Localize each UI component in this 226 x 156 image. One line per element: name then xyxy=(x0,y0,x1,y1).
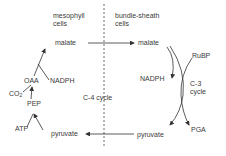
c3-cycle-label: C-3 cycle xyxy=(190,80,206,96)
bundle-sheath-malate: malate xyxy=(138,39,159,47)
co2-label: CO2 xyxy=(9,90,22,99)
c4-cycle-label: C-4 cycle xyxy=(83,94,112,102)
bundle-sheath-cells-label: bundle-sheath cells xyxy=(115,12,159,28)
pep-label: PEP xyxy=(27,100,41,108)
mesophyll-nadph: NADPH xyxy=(50,77,75,85)
rubp-label: RuBP xyxy=(192,52,210,60)
pyruvate-to-pep-arrow xyxy=(34,114,43,130)
mesophyll-pyruvate: pyruvate xyxy=(51,130,78,138)
oaa-label: OAA xyxy=(24,77,39,85)
bundle-sheath-pyruvate: pyruvate xyxy=(137,131,164,139)
pga-label: PGA xyxy=(191,126,206,134)
mesophyll-malate: malate xyxy=(55,39,76,47)
atp-label: ATP xyxy=(15,125,28,133)
malate-to-nadph-arrow xyxy=(167,47,173,78)
bundle-sheath-nadph: NADPH xyxy=(140,75,165,83)
mesophyll-cells-label: mesophyll cells xyxy=(53,12,85,28)
pep-to-oaa-arrow xyxy=(31,87,32,99)
